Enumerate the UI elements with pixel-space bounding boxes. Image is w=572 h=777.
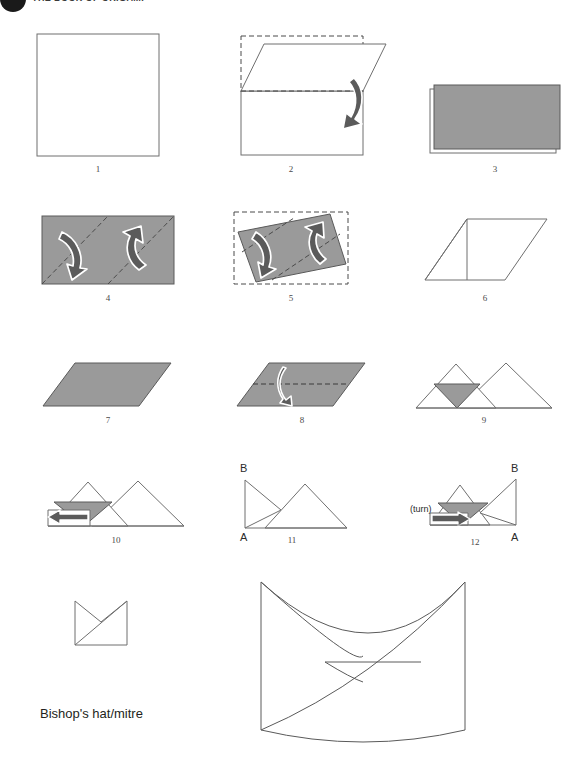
step-label-12: 12: [455, 537, 495, 547]
figure-step-5: [234, 212, 350, 286]
point-label-a-step-11: A: [240, 531, 247, 543]
step-label-9: 9: [452, 415, 516, 425]
shaded-parallelogram: [238, 214, 346, 282]
paper-flap: [241, 44, 386, 91]
figure-step-7: [42, 362, 172, 408]
figure-step-3: [430, 85, 560, 157]
figure-final-3d: [255, 578, 471, 750]
figure-final-flat: [74, 600, 128, 646]
shaded-rectangle: [434, 85, 560, 149]
step-label-3: 3: [463, 164, 527, 174]
shaded-parallelogram: [43, 363, 171, 406]
step-label-11: 11: [272, 535, 312, 545]
figure-step-10: [46, 478, 186, 534]
sweep-inner: [261, 582, 363, 657]
step-label-10: 10: [84, 535, 148, 545]
point-label-b-step-11: B: [240, 462, 247, 474]
origami-instruction-page: THE BOOK OF ORIGAMI 1 2: [0, 0, 572, 777]
fold-lower: [325, 662, 363, 682]
figure-step-8: [236, 362, 366, 408]
step-label-7: 7: [76, 415, 140, 425]
point-label-b-step-12: B: [511, 462, 518, 474]
header-bullet-icon: [0, 0, 26, 12]
figure-step-2: [238, 33, 386, 159]
paper-square: [37, 34, 159, 156]
step-label-2: 2: [259, 164, 323, 174]
figure-step-4: [42, 216, 174, 286]
shaded-rectangle: [42, 216, 174, 284]
step-label-4: 4: [76, 293, 140, 303]
figure-step-11: [243, 478, 351, 532]
turn-annotation: (turn): [410, 504, 432, 514]
brim-bottom: [261, 730, 465, 742]
figure-step-12: [424, 473, 520, 533]
model-caption: Bishop's hat/mitre: [40, 706, 143, 721]
paper-parallelogram: [425, 219, 547, 280]
figure-step-1: [36, 33, 160, 157]
step-label-1: 1: [66, 164, 130, 174]
step-label-5: 5: [259, 293, 323, 303]
sweep-front: [261, 582, 465, 633]
page-header: THE BOOK OF ORIGAMI: [0, 0, 572, 12]
figure-step-9: [414, 360, 554, 410]
step-label-6: 6: [453, 293, 517, 303]
step-label-8: 8: [270, 415, 334, 425]
figure-step-6: [424, 218, 548, 282]
header-title: THE BOOK OF ORIGAMI: [32, 0, 144, 3]
point-label-a-step-12: A: [511, 531, 518, 543]
peak-right: [265, 484, 347, 528]
